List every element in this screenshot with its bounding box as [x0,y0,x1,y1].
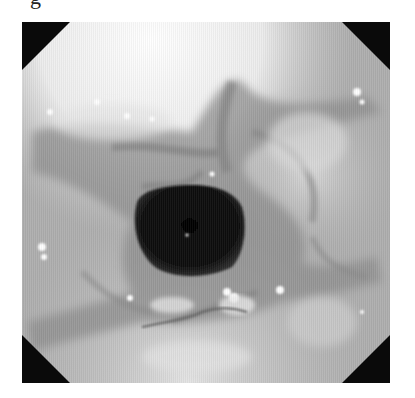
frame-corner-bottom-right [342,335,390,383]
frame-corner-top-left [22,22,70,70]
endoscopic-image-frame [22,22,390,383]
figure-label-clipped: g [30,0,41,8]
endoscopic-scene [22,22,390,383]
frame-corner-top-right [342,22,390,70]
lumen [135,185,245,276]
frame-corner-bottom-left [22,335,70,383]
